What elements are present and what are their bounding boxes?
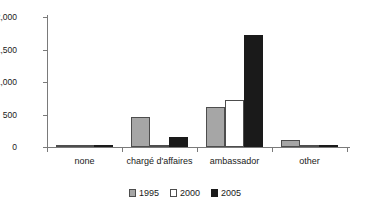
x-axis-tick-mark — [197, 147, 198, 152]
bar-group-other — [272, 17, 347, 147]
bar-2000-none — [75, 145, 94, 147]
legend-swatch-2000 — [170, 189, 177, 197]
bar-chart: 05001,0001,5002,000 none chargé d'affair… — [0, 0, 370, 212]
y-axis-tick-label: 0 — [12, 142, 17, 152]
bar-1995-ambassador — [206, 107, 225, 147]
legend-label-2000: 2000 — [180, 188, 200, 198]
legend-label-1995: 1995 — [139, 188, 159, 198]
legend-swatch-1995 — [129, 189, 136, 197]
x-axis-line — [47, 147, 350, 148]
x-axis-tick-mark — [122, 147, 123, 152]
bar-1995-charg-d-affaires — [131, 117, 150, 147]
legend-item-2005: 2005 — [211, 188, 241, 198]
legend-label-2005: 2005 — [221, 188, 241, 198]
category-label-ambassador: ambassador — [197, 156, 272, 166]
category-label-other: other — [272, 156, 347, 166]
bar-2005-ambassador — [244, 35, 263, 147]
x-axis-tick-mark — [347, 147, 348, 152]
bar-2000-charg-d-affaires — [150, 145, 169, 147]
legend-item-1995: 1995 — [129, 188, 159, 198]
y-axis-tick-label: 500 — [3, 110, 17, 120]
x-axis-tick-mark — [47, 147, 48, 152]
chart-legend: 1995 2000 2005 — [0, 188, 370, 198]
y-axis-tick-label: 2,000 — [0, 12, 17, 22]
bar-2000-other — [300, 145, 319, 147]
bar-2005-other — [319, 145, 338, 147]
y-axis-tick-label: 1,000 — [0, 77, 17, 87]
legend-swatch-2005 — [211, 189, 218, 197]
bar-groups — [47, 17, 347, 147]
bar-group-charg-d-affaires — [122, 17, 197, 147]
x-axis-tick-mark — [272, 147, 273, 152]
bar-group-ambassador — [197, 17, 272, 147]
bar-1995-none — [56, 145, 75, 147]
category-labels: none chargé d'affaires ambassador other — [47, 156, 347, 166]
bar-2005-none — [94, 145, 113, 147]
bar-2000-ambassador — [225, 100, 244, 147]
legend-item-2000: 2000 — [170, 188, 200, 198]
category-label-none: none — [47, 156, 122, 166]
category-label-charge-daffaires: chargé d'affaires — [122, 156, 197, 166]
bar-2005-charg-d-affaires — [169, 137, 188, 147]
bar-group-none — [47, 17, 122, 147]
y-axis-tick-label: 1,500 — [0, 45, 17, 55]
bar-1995-other — [281, 140, 300, 147]
